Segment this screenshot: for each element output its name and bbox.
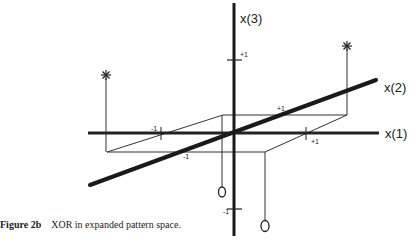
xor-3d-diagram: x(3) x(2) x(1) +1 -1 -1 +1 -1 +1 [0,0,417,242]
x3-neg-tick-label: -1 [223,208,229,215]
x3-axis-label: x(3) [240,11,262,26]
star-marker-right [342,41,352,51]
figure-number: Figure 2b [0,219,41,230]
x2-axis-label: x(2) [384,80,406,95]
x1-axis-label: x(1) [385,126,407,141]
x2-pos-tick-label: +1 [277,105,285,112]
x3-pos-tick-label: +1 [240,51,248,58]
circle-marker-center [219,187,226,197]
figure-caption: Figure 2bXOR in expanded pattern space. [0,219,181,230]
x1-neg-tick-label: -1 [151,125,157,132]
x1-pos-tick-label: +1 [311,138,319,145]
x2-neg-tick-label: -1 [183,153,189,160]
circle-marker-right [261,221,269,232]
star-marker-left [101,70,111,80]
figure-caption-text: XOR in expanded pattern space. [51,219,181,230]
